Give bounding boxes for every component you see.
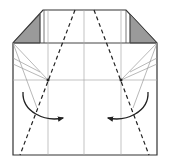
origami-diagram [0, 0, 169, 165]
right-reference-point [120, 79, 123, 82]
left-reference-point [47, 79, 50, 82]
right-shaded-flap [130, 14, 157, 43]
left-shaded-flap [13, 14, 40, 43]
